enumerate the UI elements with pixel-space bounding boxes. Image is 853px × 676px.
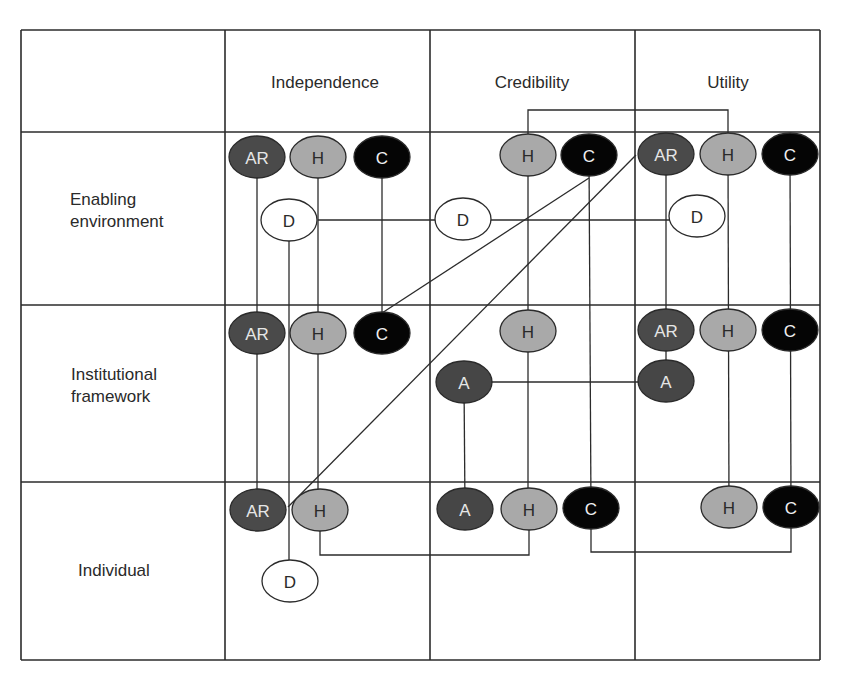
node-if-ind-c: C xyxy=(354,312,410,354)
row-label-line: Individual xyxy=(78,561,150,580)
connector-cre-c-to-uti-c-bracket xyxy=(591,507,791,552)
node-ee-uti-d: D xyxy=(669,195,725,237)
node-if-uti-a: A xyxy=(638,360,694,402)
column-header-independence: Independence xyxy=(271,73,379,92)
node-label: H xyxy=(522,147,534,166)
row-label-line: environment xyxy=(70,212,164,231)
node-label: AR xyxy=(245,325,269,344)
node-label: C xyxy=(583,147,595,166)
node-ee-cre-h: H xyxy=(500,134,556,176)
node-in-uti-h: H xyxy=(701,486,757,528)
node-in-ind-h: H xyxy=(292,489,348,531)
node-label: H xyxy=(722,146,734,165)
node-label: A xyxy=(459,501,471,520)
node-if-uti-h: H xyxy=(700,309,756,351)
node-ee-ind-c: C xyxy=(354,136,410,178)
node-if-ind-ar: AR xyxy=(229,312,285,354)
node-in-cre-a: A xyxy=(437,488,493,530)
node-in-uti-c: C xyxy=(763,486,819,528)
node-ee-cre-c: C xyxy=(561,134,617,176)
node-ee-ind-d: D xyxy=(261,199,317,241)
connector-diagonal-cre-c-to-ind-c xyxy=(382,178,589,313)
column-header-credibility: Credibility xyxy=(495,73,570,92)
node-ee-ind-h: H xyxy=(290,136,346,178)
node-label: D xyxy=(457,211,469,230)
node-label: AR xyxy=(246,502,270,521)
node-label: D xyxy=(284,573,296,592)
node-ee-ind-ar: AR xyxy=(229,136,285,178)
node-if-ind-h: H xyxy=(290,312,346,354)
node-in-ind-ar: AR xyxy=(230,489,286,531)
node-in-ind-d: D xyxy=(262,560,318,602)
column-headers: IndependenceCredibilityUtility xyxy=(271,73,749,92)
node-label: A xyxy=(458,374,470,393)
node-label: C xyxy=(784,322,796,341)
node-if-uti-ar: AR xyxy=(638,309,694,351)
row-label-line: framework xyxy=(71,387,151,406)
node-label: C xyxy=(376,325,388,344)
node-label: C xyxy=(376,149,388,168)
node-in-cre-c: C xyxy=(563,487,619,529)
node-ee-cre-d: D xyxy=(435,198,491,240)
node-label: H xyxy=(314,502,326,521)
connector-ind-h-to-cre-h-bracket xyxy=(320,509,529,555)
node-label: H xyxy=(722,322,734,341)
row-label-institutional-framework: Institutionalframework xyxy=(71,365,157,406)
node-label: A xyxy=(660,373,672,392)
node-label: AR xyxy=(245,149,269,168)
row-label-enabling-environment: Enablingenvironment xyxy=(70,190,164,231)
node-label: H xyxy=(723,499,735,518)
node-if-cre-a: A xyxy=(436,361,492,403)
node-label: C xyxy=(784,146,796,165)
node-if-cre-h: H xyxy=(500,310,556,352)
node-ee-uti-h: H xyxy=(700,133,756,175)
node-label: H xyxy=(522,323,534,342)
column-header-utility: Utility xyxy=(707,73,749,92)
diagram-canvas: IndependenceCredibilityUtility Enablinge… xyxy=(0,0,853,676)
node-if-uti-c: C xyxy=(762,309,818,351)
node-label: AR xyxy=(654,322,678,341)
node-label: AR xyxy=(654,146,678,165)
node-label: D xyxy=(283,212,295,231)
connector-cre-c-vertical xyxy=(589,155,591,508)
node-label: H xyxy=(312,325,324,344)
node-label: D xyxy=(691,208,703,227)
row-labels: EnablingenvironmentInstitutionalframewor… xyxy=(70,190,164,580)
node-label: C xyxy=(785,499,797,518)
row-label-line: Institutional xyxy=(71,365,157,384)
node-label: H xyxy=(312,149,324,168)
node-ee-uti-ar: AR xyxy=(638,133,694,175)
row-label-line: Enabling xyxy=(70,190,136,209)
node-ee-uti-c: C xyxy=(762,133,818,175)
capacity-development-diagram: IndependenceCredibilityUtility Enablinge… xyxy=(0,0,853,676)
row-label-individual: Individual xyxy=(78,561,150,580)
node-label: C xyxy=(585,500,597,519)
node-label: H xyxy=(523,501,535,520)
node-in-cre-h: H xyxy=(501,488,557,530)
